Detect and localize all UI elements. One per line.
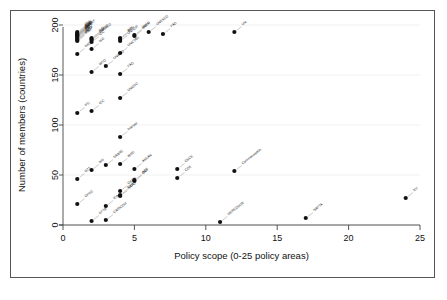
data-point-label: ICC: [98, 98, 105, 105]
data-point: [232, 30, 236, 34]
data-point-label: FAO: [170, 21, 178, 29]
data-point: [104, 163, 108, 167]
data-point: [75, 111, 79, 115]
label-leader: [80, 199, 85, 203]
data-point: [89, 109, 93, 113]
data-point: [89, 219, 93, 223]
data-point: [118, 51, 122, 55]
label-leader: [408, 193, 413, 197]
plot-area: 0501001502000510152025Policy scope (0-25…: [11, 11, 434, 277]
data-point: [132, 34, 136, 38]
y-tick-label: 200: [50, 17, 60, 32]
data-point: [89, 40, 93, 44]
label-leader: [122, 132, 127, 136]
data-point-label: CARICOM: [112, 201, 127, 214]
y-tick-label: 50: [50, 170, 60, 180]
label-leader: [80, 49, 85, 53]
label-leader: [137, 31, 142, 35]
data-point: [104, 218, 108, 222]
data-point-label: OPEC: [84, 189, 94, 198]
x-tick-label: 10: [201, 233, 211, 243]
data-point-label: IFC: [84, 100, 91, 107]
data-point-label: MERCOSUR: [227, 201, 245, 217]
x-tick-label: 15: [272, 233, 282, 243]
data-point-label: SAARC: [112, 149, 124, 160]
label-leader: [165, 29, 170, 33]
data-point-label: EU: [412, 186, 419, 192]
y-axis-title: Number of members (countries): [16, 58, 27, 192]
data-point-label: FAO: [127, 61, 135, 69]
scatter-chart: 0501001502000510152025Policy scope (0-25…: [11, 11, 434, 277]
data-point-label: Interpol: [127, 121, 139, 131]
label-leader: [137, 176, 142, 180]
chart-frame: 0501001502000510152025Policy scope (0-25…: [10, 10, 435, 278]
label-leader: [122, 69, 127, 73]
label-leader: [108, 201, 113, 205]
data-point-label: Commonwealth: [241, 148, 262, 166]
label-leader: [222, 217, 227, 221]
data-point: [175, 176, 179, 180]
label-leader: [308, 213, 313, 217]
label-leader: [94, 44, 99, 48]
data-point: [118, 39, 122, 43]
label-leader: [122, 159, 127, 163]
data-point: [89, 168, 93, 172]
data-point: [89, 70, 93, 74]
data-points: ITUUPUWMOIAEAICAOWIPOUNICEFIMFIBRDIDAWHO…: [75, 14, 419, 224]
x-tick-label: 5: [132, 233, 137, 243]
data-point-label: UNDP: [141, 21, 152, 31]
data-point: [104, 64, 108, 68]
label-leader: [180, 164, 185, 168]
data-point: [232, 169, 236, 173]
data-point-label: OSCE: [184, 154, 195, 164]
label-leader: [80, 35, 85, 39]
data-point-label: UN: [241, 20, 248, 27]
data-point: [118, 72, 122, 76]
label-leader: [108, 215, 113, 219]
label-leader: [94, 165, 99, 169]
x-tick-label: 0: [60, 233, 65, 243]
label-leader: [137, 30, 142, 34]
data-point: [161, 32, 165, 36]
data-point: [404, 196, 408, 200]
label-leader: [122, 191, 127, 195]
data-point: [147, 30, 151, 34]
data-point-label: ASEAN: [141, 153, 153, 164]
label-leader: [80, 108, 85, 112]
label-leader: [122, 36, 127, 40]
data-point: [304, 216, 308, 220]
label-leader: [137, 164, 142, 168]
data-point: [175, 167, 179, 171]
data-point: [75, 39, 79, 43]
y-tick-label: 150: [50, 67, 60, 82]
data-point: [118, 189, 122, 193]
y-tick-label: 0: [50, 222, 60, 227]
data-point-label: NAFTA: [312, 202, 324, 212]
label-leader: [94, 106, 99, 110]
label-leader: [108, 61, 113, 65]
x-tick-label: 25: [415, 233, 425, 243]
data-point-label: BIS: [98, 157, 105, 164]
data-point: [118, 96, 122, 100]
data-point: [132, 179, 136, 183]
label-leader: [94, 216, 99, 220]
data-point-label: UNESCO: [155, 14, 169, 26]
data-point: [218, 220, 222, 224]
label-leader: [151, 27, 156, 31]
data-point-label: ISO: [98, 36, 105, 43]
x-tick-label: 20: [344, 233, 354, 243]
y-tick-label: 100: [50, 117, 60, 132]
data-point-label: IBRD: [127, 150, 136, 158]
label-leader: [94, 35, 99, 39]
data-point: [75, 177, 79, 181]
label-leader: [122, 93, 127, 97]
x-axis-title: Policy scope (0-25 policy areas): [174, 250, 309, 261]
data-point: [75, 52, 79, 56]
data-point: [89, 47, 93, 51]
data-point: [75, 202, 79, 206]
label-leader: [108, 160, 113, 164]
data-point-label: COE: [184, 164, 193, 172]
data-point: [118, 162, 122, 166]
data-point-label: UNODC: [127, 81, 140, 92]
label-leader: [122, 34, 127, 38]
